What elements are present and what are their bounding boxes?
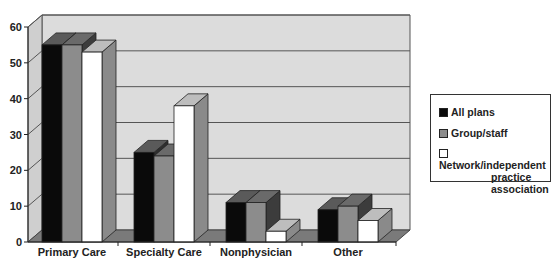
legend-label-line2: practice [439, 171, 550, 183]
legend-item-group-staff: Group/staff [439, 127, 508, 139]
swatch-black-icon [439, 108, 448, 117]
bar [82, 40, 116, 242]
y-tick-label: 0 [16, 236, 22, 248]
swatch-gray-icon [439, 129, 448, 138]
x-axis: Primary CareSpecialty CareNonphysicianOt… [28, 242, 396, 258]
y-tick-label: 60 [10, 21, 22, 33]
bar [174, 94, 208, 242]
y-axis: 0102030405060 [10, 21, 28, 248]
y-tick-label: 30 [10, 129, 22, 141]
y-tick-label: 40 [10, 93, 22, 105]
legend-item-network-ipa: Network/independent practice association [439, 147, 550, 195]
y-tick-label: 50 [10, 57, 22, 69]
x-category-label: Other [333, 246, 363, 258]
legend-label: Group/staff [451, 127, 508, 139]
y-tick-label: 20 [10, 164, 22, 176]
legend-label: Network/independent [439, 159, 546, 171]
x-category-label: Nonphysician [220, 246, 292, 258]
legend-label: All plans [451, 106, 495, 118]
swatch-white-icon [439, 149, 448, 158]
legend: All plans Group/staff Network/independen… [430, 94, 551, 182]
legend-item-all-plans: All plans [439, 106, 495, 118]
y-tick-label: 10 [10, 200, 22, 212]
legend-label-line3: association [439, 183, 550, 195]
x-category-label: Specialty Care [126, 246, 202, 258]
x-category-label: Primary Care [38, 246, 107, 258]
